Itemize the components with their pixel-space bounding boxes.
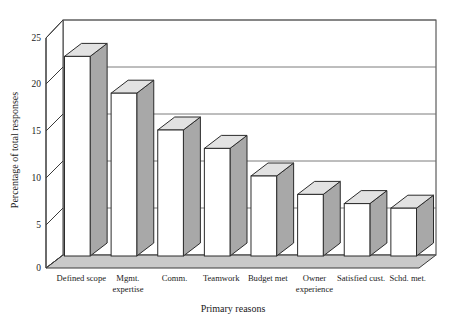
bar-6 — [344, 191, 387, 256]
y-axis-title-text: Percentage of total responses — [9, 92, 20, 208]
y-tick-label-5: 5 — [36, 220, 41, 230]
bar-front-face — [111, 93, 137, 256]
category-labels-group: Defined scopeMgmt.expertiseComm.Teamwork… — [57, 273, 426, 294]
plot-left-wall — [46, 20, 63, 268]
category-label-3: Teamwork — [203, 273, 240, 283]
category-label-6: Satisfied cust. — [337, 273, 385, 283]
y-tick-label-0: 0 — [36, 263, 41, 273]
category-label-5: Ownerexperience — [296, 273, 333, 294]
y-tick-label-20: 20 — [32, 79, 42, 89]
category-label-7: Schd. met. — [389, 273, 426, 283]
category-label-4: Budget met — [248, 273, 288, 283]
bar-front-face — [158, 130, 184, 256]
bar-front-face — [391, 208, 417, 256]
chart-canvas: 25 20 15 10 5 0 Percentage of total resp… — [0, 0, 449, 324]
bar-side-face — [90, 43, 107, 256]
bar-front-face — [204, 148, 230, 256]
category-label-0: Defined scope — [57, 273, 107, 283]
bar-front-face — [251, 176, 277, 256]
bar-0 — [64, 43, 107, 256]
bar-side-face — [137, 80, 154, 256]
y-tick-label-25: 25 — [32, 33, 42, 43]
bar-front-face — [298, 194, 324, 256]
plot-floor — [46, 255, 436, 268]
x-axis-title-text: Primary reasons — [201, 303, 266, 314]
category-label-2: Comm. — [162, 273, 188, 283]
bar-side-face — [230, 135, 247, 256]
y-tick-label-10: 10 — [32, 173, 42, 183]
bar-front-face — [344, 204, 370, 256]
x-axis-title: Primary reasons — [201, 303, 266, 314]
bar-front-face — [64, 56, 90, 256]
bar-1 — [111, 80, 154, 256]
bar-5 — [298, 181, 341, 256]
bar-7 — [391, 195, 434, 256]
y-axis-title: Percentage of total responses — [9, 92, 20, 208]
bar-3 — [204, 135, 247, 256]
category-label-1: Mgmt.expertise — [112, 273, 143, 294]
y-tick-label-15: 15 — [32, 126, 42, 136]
bar-4 — [251, 163, 294, 256]
bar-2 — [158, 117, 201, 256]
bar-side-face — [183, 117, 200, 256]
bar-side-face — [277, 163, 294, 256]
bar-chart-figure: 25 20 15 10 5 0 Percentage of total resp… — [0, 0, 449, 324]
y-tick-labels: 25 20 15 10 5 0 — [32, 33, 42, 273]
